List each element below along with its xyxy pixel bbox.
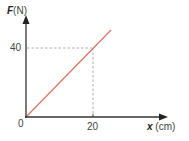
- y-tick-label-40: 40: [10, 43, 21, 53]
- chart-canvas: [0, 0, 189, 141]
- x-axis-variable: x: [147, 121, 153, 132]
- y-axis-unit: (N): [13, 5, 27, 16]
- origin-label: 0: [18, 119, 24, 129]
- data-line: [26, 30, 111, 117]
- x-axis-unit: (cm): [155, 121, 175, 132]
- x-axis-label: x (cm): [147, 122, 175, 132]
- y-axis-arrow-icon: [23, 15, 30, 24]
- x-axis-arrow-icon: [159, 114, 168, 121]
- y-axis-label: F(N): [7, 6, 27, 16]
- x-tick-label-20: 20: [87, 122, 98, 132]
